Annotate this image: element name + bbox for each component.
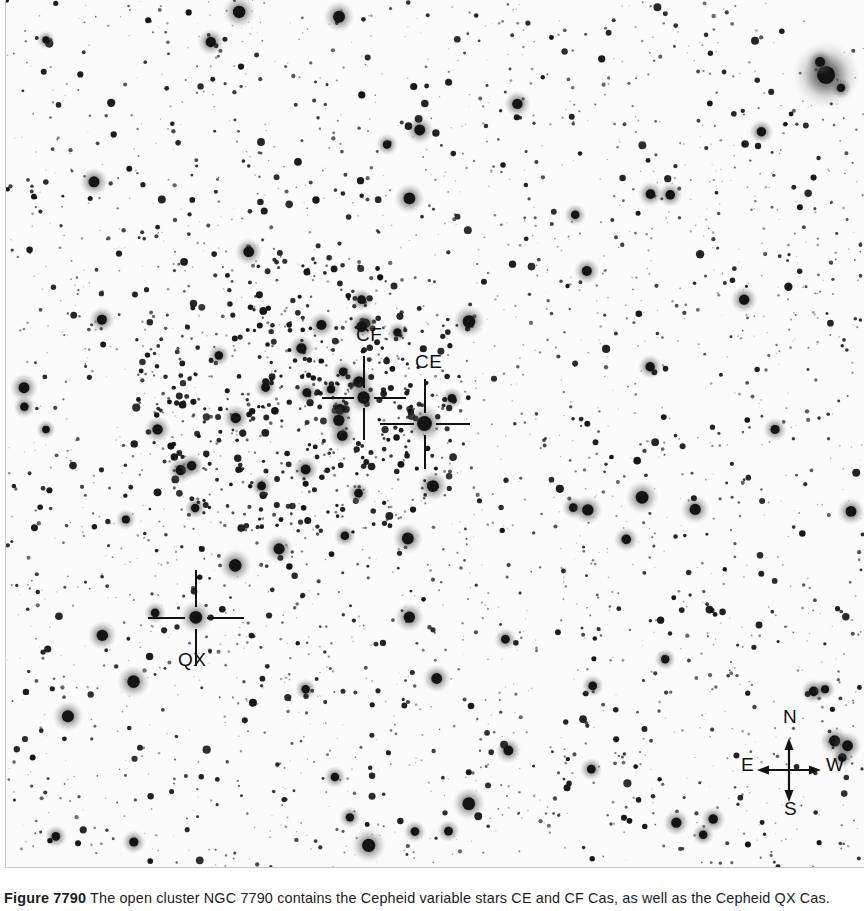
compass-rose: N S E W: [741, 700, 841, 825]
marker-label-cf: CF: [356, 325, 382, 344]
marker-label-qx: QX: [178, 650, 206, 669]
figure-page: CF CE QX: [0, 0, 866, 911]
photographic-plate-frame: CF CE QX: [5, 0, 864, 868]
photographic-plate: CF CE QX: [6, 0, 864, 867]
marker-label-ce: CE: [415, 352, 442, 371]
figure-caption: Figure 7790 The open cluster NGC 7790 co…: [4, 888, 862, 911]
compass-label-west: W: [826, 755, 844, 774]
compass-label-north: N: [783, 707, 797, 726]
starfield-image: [6, 0, 864, 867]
figure-caption-text: The open cluster NGC 7790 contains the C…: [86, 890, 830, 906]
compass-label-south: S: [784, 799, 797, 818]
compass-label-east: E: [741, 755, 754, 774]
figure-number: Figure 7790: [4, 890, 86, 906]
